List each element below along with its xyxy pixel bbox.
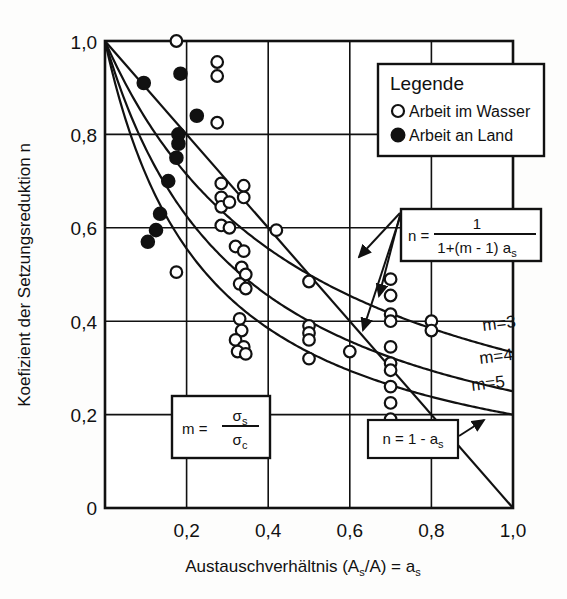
data-point-land <box>191 110 203 122</box>
m-box-lhs: m = <box>182 420 208 437</box>
svg-text:Austauschverhältnis (As/A) = a: Austauschverhältnis (As/A) = as <box>185 557 421 578</box>
curve-label-m4: m=4 <box>478 345 514 368</box>
chart-figure: 1,0 0,8 0,6 0,4 0,2 0 0,2 0,4 0,6 0,8 1,… <box>0 0 567 599</box>
y-tick-label: 0 <box>86 498 97 519</box>
formula-denominator-sub: s <box>511 247 517 259</box>
x-tick-label: 0,6 <box>337 520 363 541</box>
data-point-wasser <box>238 192 250 204</box>
y-tick-label: 0,8 <box>71 125 97 146</box>
legend-label-wasser: Arbeit im Wasser <box>409 103 531 120</box>
legend-label-land: Arbeit an Land <box>409 127 513 144</box>
x-axis-title-part1: Austauschverhältnis (A <box>185 557 360 576</box>
data-point-wasser <box>303 276 315 288</box>
formula-denominator-main: 1+(m - 1) a <box>437 239 511 256</box>
data-point-wasser <box>224 222 236 234</box>
x-axis-title: Austauschverhältnis (As/A) = as <box>185 557 421 578</box>
y-tick-label: 0,2 <box>71 405 97 426</box>
legend-title: Legende <box>390 73 464 94</box>
data-point-wasser <box>344 346 356 358</box>
data-point-wasser <box>211 70 223 82</box>
data-point-wasser <box>271 224 283 236</box>
x-tick-labels: 0,2 0,4 0,6 0,8 1,0 <box>173 520 526 541</box>
linear-box-main: n = 1 - a <box>383 430 439 447</box>
data-point-wasser <box>303 334 315 346</box>
data-point-wasser <box>238 245 250 257</box>
y-tick-label: 1,0 <box>71 32 97 53</box>
formula-box-n: n = 1 1+(m - 1) as <box>401 209 541 261</box>
data-point-wasser <box>240 348 252 360</box>
data-point-land <box>162 175 174 187</box>
x-tick-label: 0,2 <box>173 520 199 541</box>
y-axis-title: Koefizient der Setzungsreduktion n <box>15 143 34 407</box>
x-axis-title-sub2: s <box>415 566 421 578</box>
y-tick-label: 0,6 <box>71 218 97 239</box>
data-point-land <box>174 67 186 79</box>
data-point-land <box>172 138 184 150</box>
data-point-wasser <box>385 315 397 327</box>
y-tick-label: 0,4 <box>71 312 98 333</box>
m-box-den-sub: c <box>242 439 248 451</box>
linear-box-sub: s <box>438 438 444 450</box>
data-point-land <box>150 224 162 236</box>
data-point-wasser <box>240 283 252 295</box>
data-point-land <box>154 208 166 220</box>
data-point-wasser <box>224 196 236 208</box>
x-tick-label: 0,8 <box>418 520 444 541</box>
formula-box-m: m = σs σc <box>172 396 270 458</box>
data-point-wasser <box>238 180 250 192</box>
x-tick-label: 0,4 <box>255 520 282 541</box>
data-point-wasser <box>385 341 397 353</box>
data-point-land <box>142 236 154 248</box>
data-point-land <box>138 77 150 89</box>
data-point-wasser <box>385 381 397 393</box>
data-point-wasser <box>385 290 397 302</box>
curve-label-m5: m=5 <box>470 372 506 395</box>
y-tick-labels: 1,0 0,8 0,6 0,4 0,2 0 <box>71 32 98 519</box>
data-point-wasser <box>215 178 227 190</box>
x-axis-title-part2: /A) = a <box>365 557 416 576</box>
data-point-wasser <box>303 353 315 365</box>
legend: Legende Arbeit im Wasser Arbeit an Land <box>378 64 544 156</box>
data-point-wasser <box>385 397 397 409</box>
data-point-wasser <box>234 313 246 325</box>
formula-numerator: 1 <box>473 215 481 232</box>
x-tick-label: 1,0 <box>500 520 526 541</box>
data-point-wasser <box>171 266 183 278</box>
data-point-land <box>170 152 182 164</box>
data-point-wasser <box>211 56 223 68</box>
curve-label-m3: m=3 <box>481 312 517 335</box>
legend-open-circle-icon <box>392 105 404 117</box>
data-point-wasser <box>385 364 397 376</box>
legend-filled-circle-icon <box>392 129 405 142</box>
data-point-wasser <box>211 117 223 129</box>
data-point-wasser <box>385 273 397 285</box>
data-point-wasser <box>426 325 438 337</box>
formula-lhs: n = <box>408 227 430 244</box>
data-point-wasser <box>171 35 183 47</box>
scatter-plot: 1,0 0,8 0,6 0,4 0,2 0 0,2 0,4 0,6 0,8 1,… <box>0 0 567 599</box>
